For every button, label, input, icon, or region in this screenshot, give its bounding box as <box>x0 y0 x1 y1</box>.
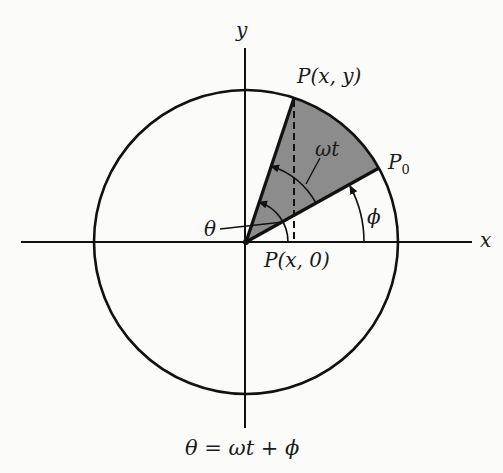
shaded-sector <box>246 98 379 242</box>
y-axis-label: y <box>236 20 247 40</box>
diagram-graphics <box>0 0 503 473</box>
theta-label: θ <box>204 219 216 239</box>
phi-arc <box>350 186 364 242</box>
angle-equation: θ = ωt + ϕ <box>185 438 299 459</box>
phi-label: ϕ <box>367 207 381 227</box>
point-P0-subscript: 0 <box>401 162 409 177</box>
reference-circle-diagram: y x P(x, y) P0 P(x, 0) ωt ϕ θ θ = ωt + ϕ <box>0 0 503 473</box>
x-axis-label: x <box>480 230 491 250</box>
point-P-label: P(x, y) <box>297 66 361 86</box>
point-P0-label: P0 <box>388 152 410 176</box>
origin-point <box>243 239 249 245</box>
omega-t-label: ωt <box>315 139 339 159</box>
point-P0-letter: P <box>388 150 401 174</box>
point-foot-label: P(x, 0) <box>264 250 330 270</box>
